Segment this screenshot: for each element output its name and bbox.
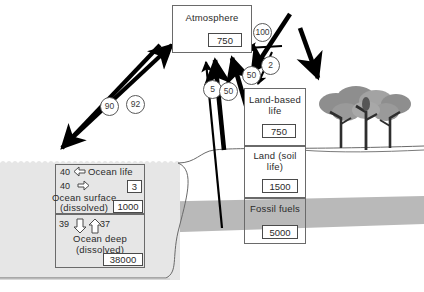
- flux-circle-atmosphere-to-ocean: 92: [126, 95, 145, 114]
- ocean-deep-label-1: Ocean deep: [58, 233, 142, 244]
- tree-group: [319, 86, 411, 150]
- atmosphere-label: Atmosphere: [172, 12, 252, 23]
- land-based-life-label-1: Land-based: [244, 94, 306, 105]
- arrow-atmosphere-uptake: [247, 46, 282, 48]
- land-based-life-label-2: life: [244, 105, 306, 116]
- land-soil-life-value: 1500: [262, 179, 298, 193]
- flux-circle-litterfall: 2: [261, 56, 280, 75]
- fossil-fuels-label: Fossil fuels: [244, 203, 306, 214]
- ocean-life-uptake-flux: 40: [60, 167, 70, 177]
- atmosphere-value: 750: [208, 33, 242, 47]
- downwelling-flux: 39: [59, 219, 69, 229]
- ocean-life-release-flux: 40: [60, 181, 70, 191]
- land-soil-life-label-2: life): [244, 161, 306, 172]
- fossil-fuels-value: 5000: [262, 225, 298, 239]
- ocean-life-label: Ocean life: [88, 166, 144, 177]
- land-based-life-value: 750: [262, 124, 296, 138]
- ocean-surface-value: 1000: [113, 200, 143, 213]
- flux-circle-soil-respiration: 50: [219, 82, 238, 101]
- arrow-soil-respiration: [215, 60, 224, 150]
- ocean-deep-value: 38000: [103, 253, 143, 266]
- flux-circle-photosynthesis: 100: [253, 23, 272, 42]
- carbon-cycle-diagram: Atmosphere 750 Land-based life 750 Land …: [0, 0, 424, 292]
- ground-line-right: [300, 150, 424, 152]
- flux-circle-land-respiration: 50: [242, 66, 261, 85]
- land-soil-life-label-1: Land (soil: [244, 150, 306, 161]
- flux-circle-ocean-to-atmosphere: 90: [100, 97, 119, 116]
- arrow-canopy-drop: [300, 28, 318, 78]
- upwelling-flux: 37: [100, 219, 110, 229]
